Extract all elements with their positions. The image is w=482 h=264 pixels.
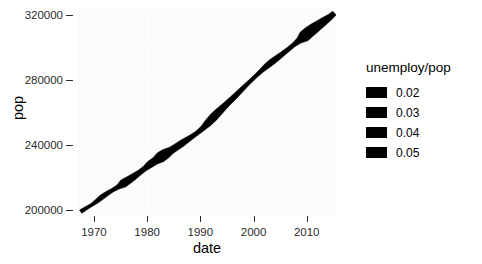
legend-key-swatch <box>366 107 387 118</box>
legend-key-swatch <box>366 147 387 158</box>
legend-label: 0.02 <box>396 86 419 100</box>
legend-item[interactable]: 0.04 <box>366 123 478 142</box>
chart-container: pop 200000240000280000320000 19701980199… <box>0 0 482 264</box>
plot-panel <box>78 8 336 216</box>
y-tick-mark <box>66 145 73 146</box>
legend-label: 0.04 <box>396 126 419 140</box>
y-tick-mark <box>66 80 73 81</box>
x-tick-label: 2010 <box>282 226 332 238</box>
x-tick-mark <box>254 216 255 222</box>
legend-item[interactable]: 0.05 <box>366 143 478 162</box>
x-tick-label: 2000 <box>229 226 279 238</box>
legend-title: unemploy/pop <box>366 60 478 75</box>
y-tick-label: 240000 <box>1 139 63 151</box>
legend-items: 0.020.030.040.05 <box>366 83 478 162</box>
x-tick-label: 1970 <box>69 226 119 238</box>
y-tick-mark <box>66 15 73 16</box>
y-axis-tick-labels: 200000240000280000320000 <box>0 0 63 264</box>
x-tick-label: 1980 <box>122 226 172 238</box>
x-tick-label: 1990 <box>175 226 225 238</box>
legend-key-swatch <box>366 87 387 98</box>
x-axis-title: date <box>78 240 336 256</box>
x-tick-mark <box>94 216 95 222</box>
legend-item[interactable]: 0.03 <box>366 103 478 122</box>
legend-key-swatch <box>366 127 387 138</box>
y-tick-label: 280000 <box>1 74 63 86</box>
y-tick-label: 200000 <box>1 204 63 216</box>
legend-label: 0.03 <box>396 106 419 120</box>
x-tick-mark <box>200 216 201 222</box>
y-tick-mark <box>66 210 73 211</box>
plot-svg <box>78 8 336 216</box>
y-tick-label: 320000 <box>1 9 63 21</box>
legend-label: 0.05 <box>396 146 419 160</box>
legend: unemploy/pop 0.020.030.040.05 <box>366 60 478 163</box>
legend-item[interactable]: 0.02 <box>366 83 478 102</box>
x-tick-mark <box>307 216 308 222</box>
x-tick-mark <box>147 216 148 222</box>
